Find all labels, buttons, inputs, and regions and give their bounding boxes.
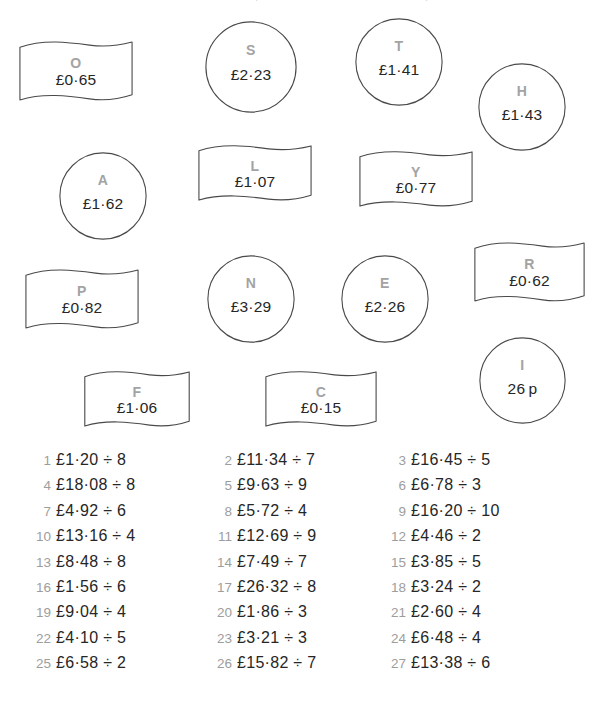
question-number: 23: [211, 632, 237, 646]
question-item: 25£6·58 ÷ 2: [18, 655, 193, 680]
token-letter: S: [205, 43, 297, 57]
question-expression: £3·21 ÷ 3: [237, 630, 307, 646]
question-item: 8£5·72 ÷ 4: [203, 503, 378, 528]
question-expression: £4·10 ÷ 5: [56, 630, 126, 646]
token-value: £0·15: [264, 400, 378, 416]
cropped-header-remnant: . .: [0, 0, 593, 4]
token-value: £0·62: [473, 273, 586, 289]
question-expression: £13·16 ÷ 4: [56, 528, 135, 544]
question-number: 14: [211, 556, 237, 570]
question-expression: £4·92 ÷ 6: [56, 503, 126, 519]
question-expression: £7·49 ÷ 7: [237, 554, 307, 570]
question-item: 11£12·69 ÷ 9: [203, 528, 378, 553]
question-expression: £4·46 ÷ 2: [411, 528, 481, 544]
question-item: 5£9·63 ÷ 9: [203, 477, 378, 502]
question-number: 2: [211, 454, 237, 468]
question-expression: £15·82 ÷ 7: [237, 655, 316, 671]
question-expression: £26·32 ÷ 8: [237, 579, 316, 595]
code-token-e: E£2·26: [341, 255, 429, 343]
token-value: £2·23: [205, 67, 297, 83]
code-token-n: N£3·29: [207, 255, 295, 343]
question-expression: £8·48 ÷ 8: [56, 554, 126, 570]
question-number: 25: [30, 657, 56, 671]
question-expression: £18·08 ÷ 8: [56, 477, 135, 493]
question-item: 15£3·85 ÷ 5: [385, 554, 560, 579]
token-letter: H: [478, 84, 566, 98]
question-list: 1£1·20 ÷ 84£18·08 ÷ 87£4·92 ÷ 610£13·16 …: [0, 452, 593, 706]
question-expression: £16·45 ÷ 5: [411, 452, 490, 468]
token-letter: P: [24, 284, 140, 298]
question-number: 9: [385, 505, 411, 519]
token-value: £0·82: [24, 300, 140, 316]
question-item: 22£4·10 ÷ 5: [18, 630, 193, 655]
question-number: 10: [30, 530, 56, 544]
code-token-r: R£0·62: [473, 241, 586, 303]
question-number: 1: [30, 454, 56, 468]
question-number: 12: [385, 530, 411, 544]
code-token-p: P£0·82: [24, 268, 140, 330]
token-letter: C: [264, 385, 378, 399]
question-number: 27: [385, 657, 411, 671]
question-expression: £16·20 ÷ 10: [411, 503, 500, 519]
question-item: 6£6·78 ÷ 3: [385, 477, 560, 502]
code-token-i: I26 p: [479, 337, 566, 424]
token-value: £0·77: [358, 180, 474, 196]
header-remnant-mark-right: .: [425, 0, 428, 3]
code-token-f: F£1·06: [83, 370, 191, 428]
question-number: 15: [385, 556, 411, 570]
question-column-2: 2£11·34 ÷ 75£9·63 ÷ 98£5·72 ÷ 411£12·69 …: [203, 452, 378, 681]
token-letter: A: [59, 173, 147, 187]
question-expression: £5·72 ÷ 4: [237, 503, 307, 519]
token-value: £1·06: [83, 400, 191, 416]
question-item: 20£1·86 ÷ 3: [203, 604, 378, 629]
question-item: 1£1·20 ÷ 8: [18, 452, 193, 477]
question-number: 11: [211, 530, 237, 544]
question-number: 22: [30, 632, 56, 646]
token-value: 26 p: [479, 381, 566, 397]
code-token-y: Y£0·77: [358, 150, 474, 208]
code-token-l: L£1·07: [197, 144, 313, 202]
token-letter: E: [341, 276, 429, 290]
question-expression: £3·85 ÷ 5: [411, 554, 481, 570]
token-value: £0·65: [18, 72, 134, 88]
question-item: 7£4·92 ÷ 6: [18, 503, 193, 528]
question-item: 26£15·82 ÷ 7: [203, 655, 378, 680]
question-item: 17£26·32 ÷ 8: [203, 579, 378, 604]
question-number: 7: [30, 505, 56, 519]
question-item: 23£3·21 ÷ 3: [203, 630, 378, 655]
question-number: 8: [211, 505, 237, 519]
question-number: 18: [385, 581, 411, 595]
token-value: £1·43: [478, 107, 566, 123]
question-expression: £12·69 ÷ 9: [237, 528, 316, 544]
question-number: 16: [30, 581, 56, 595]
token-letter: F: [83, 385, 191, 399]
code-token-h: H£1·43: [478, 63, 566, 151]
question-expression: £6·48 ÷ 4: [411, 630, 481, 646]
question-number: 6: [385, 479, 411, 493]
token-letter: I: [479, 358, 566, 372]
question-item: 18£3·24 ÷ 2: [385, 579, 560, 604]
question-expression: £6·58 ÷ 2: [56, 655, 126, 671]
question-number: 4: [30, 479, 56, 493]
question-number: 19: [30, 606, 56, 620]
question-number: 3: [385, 454, 411, 468]
token-value: £2·26: [341, 299, 429, 315]
question-item: 21£2·60 ÷ 4: [385, 604, 560, 629]
question-number: 24: [385, 632, 411, 646]
question-number: 20: [211, 606, 237, 620]
question-item: 13£8·48 ÷ 8: [18, 554, 193, 579]
question-expression: £2·60 ÷ 4: [411, 604, 481, 620]
question-item: 4£18·08 ÷ 8: [18, 477, 193, 502]
header-remnant-mark-left: .: [255, 0, 258, 3]
question-expression: £1·56 ÷ 6: [56, 579, 126, 595]
question-expression: £3·24 ÷ 2: [411, 579, 481, 595]
question-item: 10£13·16 ÷ 4: [18, 528, 193, 553]
question-expression: £11·34 ÷ 7: [237, 452, 315, 468]
code-token-c: C£0·15: [264, 370, 378, 428]
token-letter: T: [355, 39, 443, 53]
token-letter: L: [197, 159, 313, 173]
token-value: £1·62: [59, 196, 147, 212]
code-token-a: A£1·62: [59, 152, 147, 240]
question-item: 3£16·45 ÷ 5: [385, 452, 560, 477]
code-token-t: T£1·41: [355, 18, 443, 106]
